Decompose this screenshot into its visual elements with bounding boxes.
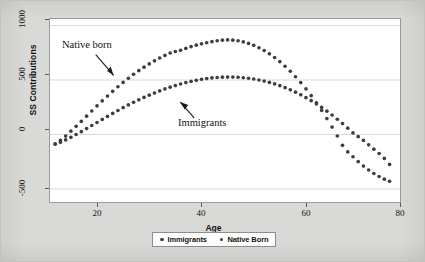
data-point bbox=[111, 89, 115, 93]
data-point bbox=[205, 41, 209, 45]
data-point bbox=[179, 82, 183, 86]
data-point bbox=[268, 52, 272, 56]
legend-entry-native-born[interactable]: Native Born bbox=[220, 235, 269, 244]
data-point bbox=[116, 85, 120, 89]
data-point bbox=[127, 76, 131, 80]
x-tick-text: 80 bbox=[396, 208, 405, 218]
data-point bbox=[121, 106, 125, 110]
data-point bbox=[132, 100, 136, 104]
data-point bbox=[127, 103, 131, 107]
y-tick-label-1000: 1000 bbox=[5, 13, 39, 25]
legend-label-immigrants: Immigrants bbox=[168, 235, 207, 244]
data-point bbox=[74, 124, 78, 128]
y-axis-label: SS Contributions bbox=[26, 25, 40, 135]
legend-marker-dot-icon bbox=[160, 238, 164, 242]
data-point bbox=[158, 56, 162, 60]
data-point bbox=[184, 47, 188, 51]
data-point bbox=[80, 130, 84, 134]
data-point bbox=[231, 75, 235, 79]
data-point bbox=[226, 38, 230, 42]
data-point bbox=[64, 138, 68, 142]
data-point bbox=[372, 147, 376, 151]
data-point bbox=[283, 86, 287, 90]
annotation-native-born: Native born bbox=[62, 39, 112, 50]
data-point bbox=[194, 78, 198, 82]
data-point bbox=[346, 126, 350, 130]
data-point bbox=[69, 129, 73, 133]
data-point bbox=[137, 69, 141, 73]
data-point bbox=[320, 109, 324, 113]
data-point bbox=[294, 90, 298, 94]
data-point bbox=[388, 179, 392, 183]
data-point bbox=[95, 104, 99, 108]
y-tick-text: -500 bbox=[16, 171, 28, 205]
data-point bbox=[215, 76, 219, 80]
data-point bbox=[163, 87, 167, 91]
data-point bbox=[377, 175, 381, 179]
data-point bbox=[257, 46, 261, 50]
x-tick-text: 60 bbox=[302, 208, 311, 218]
data-point bbox=[221, 38, 225, 42]
native-born-arrow-head bbox=[107, 66, 113, 75]
data-point bbox=[189, 45, 193, 49]
data-point bbox=[100, 99, 104, 103]
data-point bbox=[283, 64, 287, 68]
data-point bbox=[95, 121, 99, 125]
data-point bbox=[372, 172, 376, 176]
data-point bbox=[294, 75, 298, 79]
chart-legend[interactable]: Immigrants Native Born bbox=[152, 232, 276, 247]
data-point bbox=[241, 40, 245, 44]
data-point bbox=[210, 40, 214, 44]
data-point bbox=[226, 75, 230, 79]
data-point bbox=[121, 81, 125, 85]
data-point bbox=[215, 39, 219, 43]
data-point bbox=[346, 150, 350, 154]
data-point bbox=[194, 43, 198, 47]
data-point bbox=[132, 73, 136, 77]
x-tick-text: 20 bbox=[93, 208, 102, 218]
data-point bbox=[174, 50, 178, 54]
data-point bbox=[252, 44, 256, 48]
data-point bbox=[257, 78, 261, 82]
x-tick-label-80: 80 bbox=[385, 207, 415, 219]
data-point bbox=[153, 59, 157, 63]
data-point bbox=[210, 76, 214, 80]
data-point bbox=[74, 133, 78, 137]
data-point bbox=[53, 142, 57, 146]
data-point bbox=[111, 112, 115, 116]
data-point bbox=[231, 38, 235, 42]
data-point bbox=[100, 118, 104, 122]
data-point bbox=[153, 91, 157, 95]
data-point bbox=[168, 51, 172, 55]
data-point bbox=[356, 135, 360, 139]
data-point bbox=[189, 80, 193, 84]
data-point bbox=[106, 94, 110, 98]
data-point bbox=[168, 85, 172, 89]
data-point bbox=[377, 152, 381, 156]
data-point bbox=[147, 62, 151, 66]
data-point bbox=[351, 155, 355, 159]
series-native-born-points bbox=[53, 38, 391, 183]
data-point bbox=[268, 81, 272, 85]
data-point bbox=[362, 164, 366, 168]
data-point bbox=[335, 134, 339, 138]
data-point bbox=[273, 56, 277, 60]
data-point bbox=[315, 101, 319, 105]
data-point bbox=[90, 124, 94, 128]
data-point bbox=[147, 93, 151, 97]
legend-label-native-born: Native Born bbox=[227, 235, 268, 244]
data-point bbox=[200, 78, 204, 82]
data-point bbox=[330, 125, 334, 129]
data-point bbox=[236, 39, 240, 43]
data-point bbox=[64, 134, 68, 138]
legend-entry-immigrants[interactable]: Immigrants bbox=[160, 235, 207, 244]
data-point bbox=[174, 84, 178, 88]
data-point bbox=[262, 79, 266, 83]
data-point bbox=[304, 87, 308, 91]
data-point bbox=[351, 131, 355, 135]
data-point bbox=[325, 109, 329, 113]
data-point bbox=[325, 117, 329, 121]
data-point bbox=[116, 109, 120, 113]
data-point bbox=[367, 168, 371, 172]
data-point bbox=[85, 127, 89, 131]
